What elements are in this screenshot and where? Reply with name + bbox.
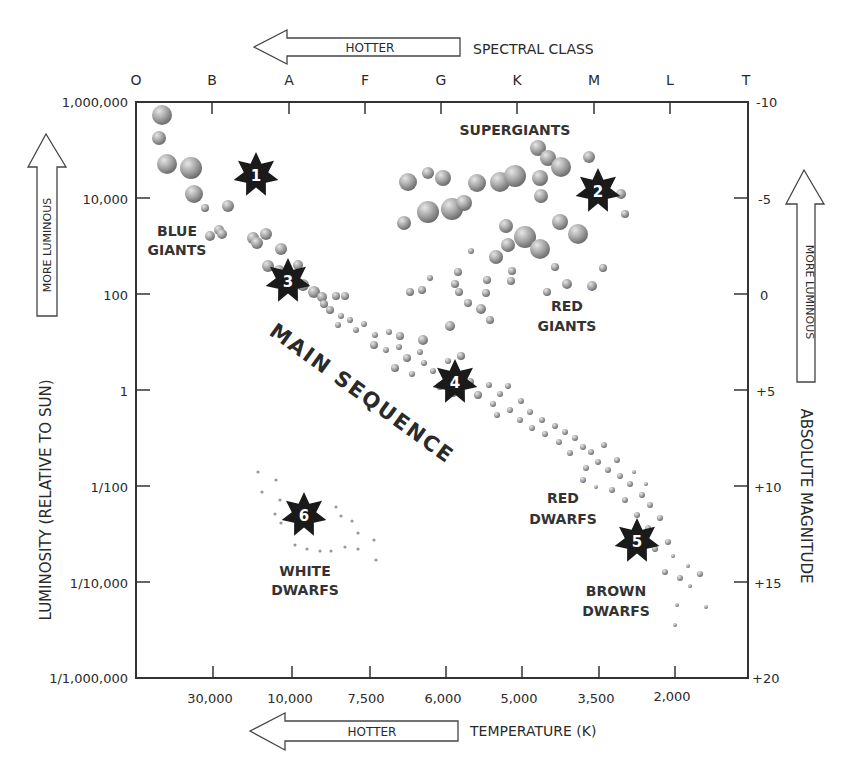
- spectral-class-title: SPECTRAL CLASS: [473, 41, 594, 57]
- spectral-class-ticks: O B A F G K M L T: [130, 72, 750, 88]
- temp-tick-30000: 30,000: [187, 691, 233, 706]
- luminosity-ticks: 1,000,000 10,000 100 1 1/100 1/10,000 1/…: [49, 95, 128, 686]
- brown-dwarfs-label-1: BROWN: [586, 583, 647, 599]
- blue-giants-label-2: GIANTS: [148, 242, 207, 258]
- red-dwarfs-label-2: DWARFS: [529, 511, 597, 527]
- temp-tick-6000: 6,000: [424, 691, 461, 706]
- temperature-ticks: 30,000 10,000 7,500 6,000 5,000 3,500 2,…: [187, 689, 690, 706]
- marker-4-label: 4: [450, 374, 460, 392]
- bottom-arrow-label: HOTTER: [348, 725, 397, 739]
- luminosity-axis-title: LUMINOSITY (RELATIVE TO SUN): [37, 380, 55, 621]
- right-arrow-label: MORE LUMINOUS: [803, 245, 816, 340]
- white-dwarfs-label-2: DWARFS: [271, 582, 339, 598]
- frame-ticks: [136, 102, 748, 678]
- left-arrow-label: MORE LUMINOUS: [41, 198, 54, 293]
- lum-tick-10000: 10,000: [83, 192, 129, 207]
- blue-giants-label-1: BLUE: [157, 223, 197, 239]
- blue-giants-spheres: [152, 105, 349, 302]
- spectral-tick-m: M: [588, 72, 600, 88]
- spectral-tick-l: L: [666, 72, 674, 88]
- plot-frame: [136, 102, 748, 678]
- temp-tick-2000: 2,000: [653, 689, 690, 704]
- marker-1: 1: [234, 152, 279, 196]
- left-more-luminous-arrow: MORE LUMINOUS: [28, 134, 66, 316]
- red-dwarfs-label-1: RED: [547, 490, 579, 506]
- mag-tick-minus10: -10: [756, 95, 777, 110]
- white-dwarfs-label-1: WHITE: [279, 563, 330, 579]
- red-giants-label-2: GIANTS: [538, 318, 597, 334]
- spectral-tick-t: T: [741, 72, 751, 88]
- bottom-hotter-arrow: HOTTER: [250, 713, 458, 750]
- main-sequence-spheres: [320, 300, 708, 627]
- supergiants-spheres: [396, 140, 629, 345]
- mag-tick-minus5: -5: [758, 192, 771, 207]
- spectral-tick-g: G: [436, 72, 447, 88]
- brown-dwarfs-label-2: DWARFS: [582, 603, 650, 619]
- lum-tick-1000000: 1,000,000: [62, 95, 128, 110]
- marker-2-label: 2: [593, 183, 603, 201]
- marker-3-label: 3: [283, 273, 293, 291]
- marker-5: 5: [615, 518, 660, 562]
- lum-tick-100: 100: [103, 288, 128, 303]
- mag-tick-plus15: +15: [754, 576, 781, 591]
- lum-tick-1: 1: [120, 384, 128, 399]
- marker-2: 2: [576, 168, 621, 212]
- temp-tick-10000: 10,000: [267, 691, 313, 706]
- right-more-luminous-arrow: MORE LUMINOUS: [786, 170, 824, 382]
- temp-tick-5000: 5,000: [500, 691, 537, 706]
- temp-tick-7500: 7,500: [347, 691, 384, 706]
- mag-tick-plus20: +20: [752, 671, 779, 686]
- marker-6-label: 6: [299, 507, 309, 525]
- lum-tick-1-1000000: 1/1,000,000: [49, 671, 128, 686]
- spectral-tick-k: K: [512, 72, 522, 88]
- spectral-tick-b: B: [207, 72, 217, 88]
- magnitude-ticks: -10 -5 0 +5 +10 +15 +20: [752, 95, 781, 686]
- top-arrow-label: HOTTER: [346, 41, 395, 55]
- main-sequence-label: MAIN SEQUENCE: [265, 319, 459, 469]
- marker-5-label: 5: [632, 533, 642, 551]
- top-hotter-arrow: HOTTER: [254, 30, 460, 64]
- mag-tick-0: 0: [760, 288, 768, 303]
- hr-diagram: HOTTER SPECTRAL CLASS O B A F G K M L T: [0, 0, 847, 779]
- marker-1-label: 1: [251, 167, 261, 185]
- spectral-tick-a: A: [284, 72, 294, 88]
- temp-tick-3500: 3,500: [577, 691, 614, 706]
- spectral-tick-f: F: [361, 72, 369, 88]
- mag-tick-plus5: +5: [756, 384, 775, 399]
- mag-tick-plus10: +10: [754, 480, 781, 495]
- spectral-tick-o: O: [130, 72, 141, 88]
- supergiants-label: SUPERGIANTS: [460, 122, 571, 138]
- magnitude-axis-title: ABSOLUTE MAGNITUDE: [797, 409, 815, 584]
- marker-6: 6: [282, 492, 327, 536]
- lum-tick-1-10000: 1/10,000: [70, 576, 128, 591]
- temperature-title: TEMPERATURE (K): [469, 723, 596, 739]
- red-giants-label-1: RED: [551, 298, 583, 314]
- lum-tick-1-100: 1/100: [91, 480, 128, 495]
